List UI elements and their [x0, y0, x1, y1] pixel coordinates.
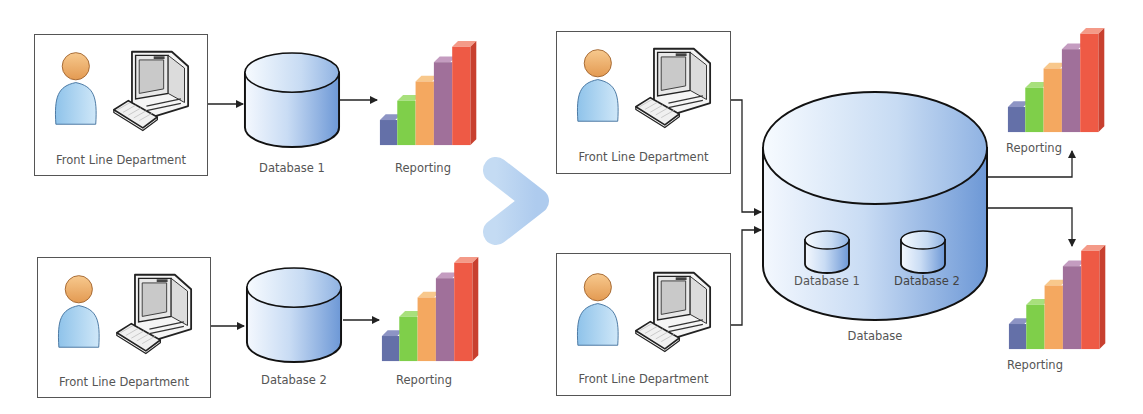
reporting-bar-chart-icon [378, 40, 484, 148]
front-line-department-box-3: Front Line Department [556, 31, 731, 174]
reporting-label: Reporting [1005, 358, 1065, 372]
central-database-label: Database [835, 329, 915, 343]
chevron-right-arrow-icon [480, 158, 560, 244]
reporting-label: Reporting [378, 161, 468, 175]
reporting-bar-chart-icon [380, 256, 486, 364]
reporting-label: Reporting [378, 373, 470, 387]
inner-database-1-icon [805, 231, 849, 273]
department-label: Front Line Department [557, 150, 730, 164]
user-computer-icon [567, 262, 721, 356]
reporting-bar-chart-icon [1006, 27, 1112, 135]
user-computer-icon [567, 38, 721, 132]
database-1-label: Database 1 [243, 161, 341, 175]
database-1-cylinder-icon [243, 50, 341, 150]
reporting-label: Reporting [1004, 141, 1064, 155]
front-line-department-box-2: Front Line Department [37, 257, 211, 398]
department-label: Front Line Department [38, 375, 210, 389]
inner-database-1-label: Database 1 [787, 274, 867, 288]
database-2-label: Database 2 [245, 373, 343, 387]
reporting-bar-chart-icon [1007, 243, 1113, 353]
department-label: Front Line Department [557, 372, 730, 386]
front-line-department-box-4: Front Line Department [556, 253, 731, 396]
database-2-cylinder-icon [245, 265, 343, 365]
user-computer-icon [48, 264, 202, 358]
inner-database-2-label: Database 2 [887, 274, 967, 288]
inner-database-2-icon [901, 231, 945, 273]
